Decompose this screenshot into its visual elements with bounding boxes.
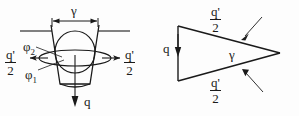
- force-right-label: q' 2: [124, 48, 135, 78]
- force-bottom-numerator: q': [210, 76, 221, 89]
- force-left-label: q' 2: [5, 48, 16, 78]
- force-right-denominator: 2: [124, 63, 135, 77]
- apex-angle-leader-arrows: [241, 17, 263, 92]
- phi1-symbol: φ: [25, 67, 33, 82]
- phi2-symbol: φ: [23, 39, 31, 54]
- force-vertical-label: q: [163, 42, 170, 55]
- force-left-fraction: q' 2: [5, 48, 16, 77]
- vertical-force-arrow: [175, 34, 181, 57]
- force-right-fraction: q' 2: [124, 48, 135, 77]
- force-bottom-denominator: 2: [210, 91, 221, 105]
- phi2-subscript: 2: [31, 47, 36, 57]
- force-top-label: q' 2: [210, 5, 221, 35]
- force-left-numerator: q': [5, 48, 16, 61]
- force-top-fraction: q' 2: [210, 5, 221, 34]
- force-down-label: q: [84, 95, 91, 108]
- downward-force-arrowhead: [72, 96, 79, 107]
- gamma-label-left: γ: [71, 4, 77, 17]
- force-bottom-label: q' 2: [210, 76, 221, 106]
- left-diagram: γ φ2 φ1 q' 2 q' 2 q: [0, 0, 150, 116]
- phi1-label: φ1: [25, 66, 37, 85]
- force-left-denominator: 2: [5, 63, 16, 77]
- right-diagram: q q' 2 q' 2 γ: [150, 0, 299, 116]
- force-top-denominator: 2: [210, 20, 221, 34]
- gamma-dimension-line: [52, 18, 98, 27]
- force-right-numerator: q': [124, 48, 135, 61]
- phi1-subscript: 1: [33, 75, 38, 85]
- force-bottom-fraction: q' 2: [210, 76, 221, 105]
- force-top-numerator: q': [210, 5, 221, 18]
- right-diagram-svg: [150, 0, 299, 116]
- apex-angle-label: γ: [229, 48, 235, 61]
- phi2-label: φ2: [23, 38, 35, 57]
- figure-root: γ φ2 φ1 q' 2 q' 2 q: [0, 0, 299, 116]
